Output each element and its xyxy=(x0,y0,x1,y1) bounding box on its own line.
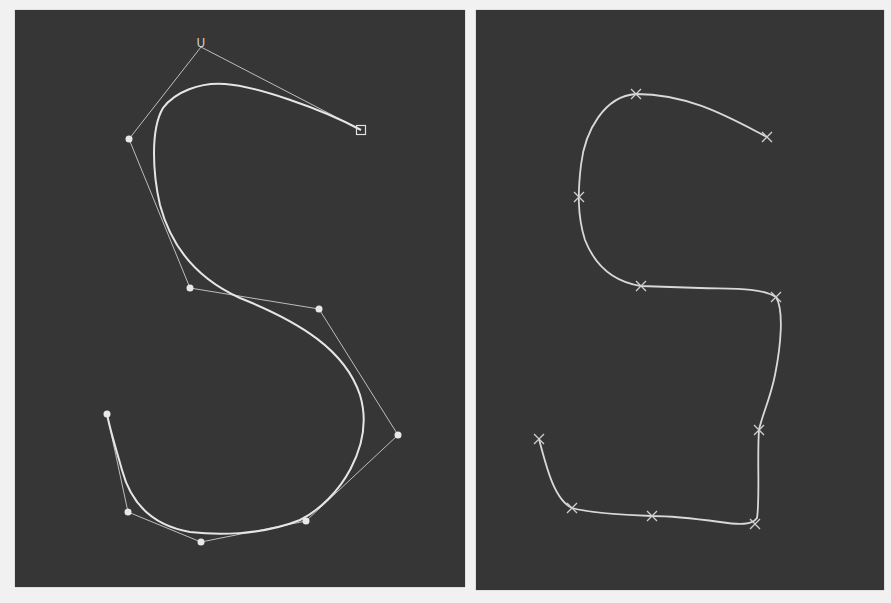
control-point-handle[interactable] xyxy=(198,539,205,546)
interpolation-points xyxy=(534,89,781,529)
x-marker-icon[interactable] xyxy=(771,292,781,302)
control-points xyxy=(104,136,402,546)
control-point-handle[interactable] xyxy=(125,509,132,516)
start-point-label: U xyxy=(197,36,206,50)
right-panel-graphics xyxy=(534,89,781,529)
control-polygon xyxy=(107,47,398,542)
bezier-curve xyxy=(107,84,364,534)
control-point-handle[interactable] xyxy=(303,518,310,525)
x-marker-icon[interactable] xyxy=(762,132,772,142)
spline-overlay: U xyxy=(0,0,891,603)
control-point-handle[interactable] xyxy=(187,285,194,292)
control-point-handle[interactable] xyxy=(316,306,323,313)
control-point-handle[interactable] xyxy=(104,411,111,418)
control-point-handle[interactable] xyxy=(126,136,133,143)
left-panel-graphics: U xyxy=(104,36,402,546)
control-point-handle[interactable] xyxy=(395,432,402,439)
interpolating-curve xyxy=(539,94,781,524)
